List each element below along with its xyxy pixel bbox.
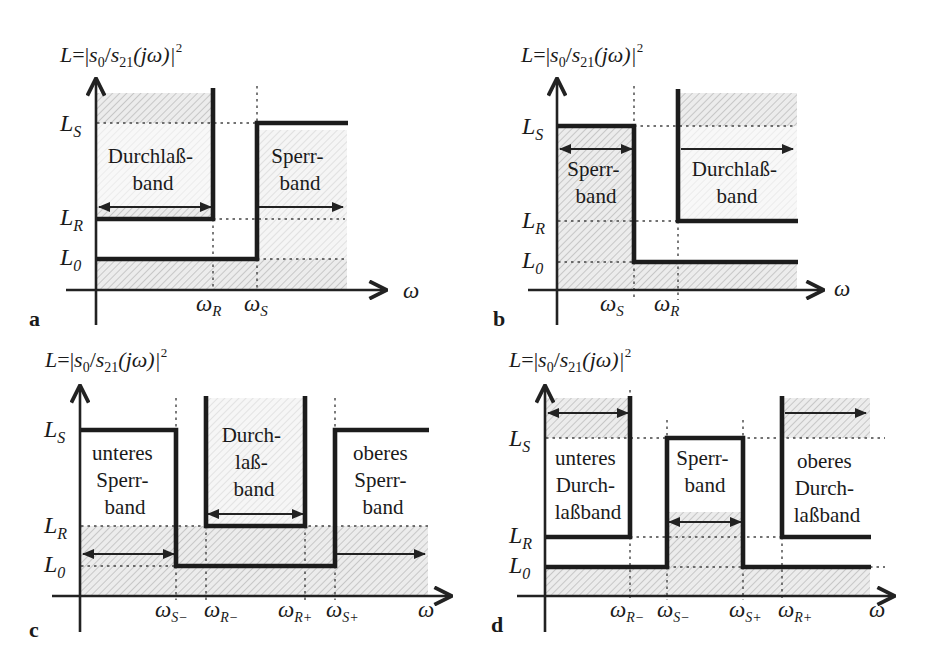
hatch-region	[678, 93, 797, 126]
y-level-lr: LR	[43, 512, 67, 542]
x-tick-omega-r: ωR	[654, 291, 679, 319]
x-tick-omega-s-plus: ωS+	[729, 597, 762, 625]
y-level-lr: LR	[59, 204, 83, 234]
y-axis-title: L=|s0/s21(jω)|2	[508, 345, 631, 375]
x-tick-omega-r-minus: ωR−	[204, 597, 238, 625]
y-level-l0: L0	[508, 552, 530, 582]
y-level-ls: LS	[43, 416, 65, 446]
x-axis-symbol: ω	[869, 597, 885, 622]
x-tick-omega-s-minus: ωS−	[155, 597, 188, 625]
x-tick-omega-s: ωS	[244, 291, 268, 319]
filter-tolerance-diagram: L=|s0/s21(jω)|2 LS LR L0 ωR ωS ω Durchla…	[0, 0, 927, 665]
hatch-region	[81, 526, 428, 596]
y-level-ls: LS	[521, 113, 543, 143]
panel-tag: d	[491, 612, 503, 637]
y-level-ls: LS	[508, 425, 530, 455]
panel-b-highpass: L=|s0/s21(jω)|2 LS LR L0 ωS ωR ω Sperr- …	[493, 40, 850, 331]
y-level-ls: LS	[59, 110, 81, 140]
band-label-lower-passband: unteres Durch- laßband	[555, 446, 622, 524]
x-tick-omega-r-plus: ωR+	[278, 597, 312, 625]
hatch-region	[667, 512, 743, 567]
band-label-upper-stopband: oberes Sperr- band	[353, 441, 413, 519]
y-level-lr: LR	[508, 522, 532, 552]
x-tick-omega-s: ωS	[600, 291, 624, 319]
hatch-region	[97, 93, 213, 123]
x-axis-symbol: ω	[403, 278, 419, 303]
y-axis-title: L=|s0/s21(jω)|2	[520, 40, 643, 70]
band-label-lower-stopband: unteres Sperr- band	[92, 441, 158, 519]
hatch-region	[782, 398, 870, 438]
y-level-l0: L0	[59, 244, 81, 274]
y-axis-title: L=|s0/s21(jω)|2	[59, 40, 182, 70]
panel-d-bandstop: L=|s0/s21(jω)|2 LS LR L0 ωR− ωS− ωS+ ωR+…	[491, 345, 893, 637]
panel-c-bandpass: L=|s0/s21(jω)|2 LS LR L0 ωS− ωR− ωR+ ωS+…	[29, 345, 450, 642]
hatch-region	[97, 259, 347, 290]
x-tick-omega-r: ωR	[196, 291, 221, 319]
panel-a-lowpass: L=|s0/s21(jω)|2 LS LR L0 ωR ωS ω Durchla…	[29, 40, 419, 331]
x-tick-omega-r-minus: ωR−	[610, 597, 644, 625]
y-level-l0: L0	[43, 551, 65, 581]
y-axis-title: L=|s0/s21(jω)|2	[44, 345, 167, 375]
x-tick-omega-s-plus: ωS+	[326, 597, 359, 625]
hatch-region	[546, 398, 630, 438]
x-axis-symbol: ω	[834, 276, 850, 301]
panel-tag: b	[493, 306, 505, 331]
x-axis-symbol: ω	[418, 597, 434, 622]
y-level-l0: L0	[521, 247, 543, 277]
band-label-stopband: Sperr- band	[676, 446, 733, 497]
x-tick-omega-r-plus: ωR+	[778, 597, 812, 625]
y-level-lr: LR	[521, 207, 545, 237]
panel-tag: a	[29, 306, 40, 331]
hatch-region	[558, 126, 634, 290]
hatch-region	[634, 262, 797, 290]
hatch-region	[546, 567, 870, 596]
panel-tag: c	[29, 617, 39, 642]
band-label-upper-passband: oberes Durch- laßband	[794, 449, 861, 527]
x-tick-omega-s-minus: ωS−	[657, 597, 690, 625]
